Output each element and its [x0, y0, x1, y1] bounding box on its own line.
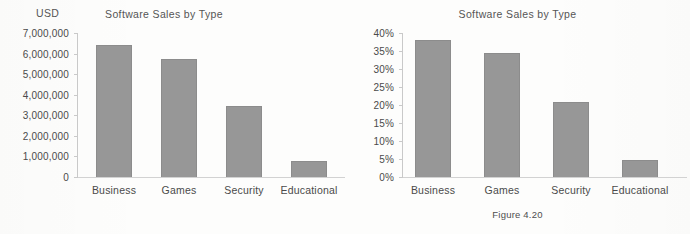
figure-caption: Figure 4.20	[345, 209, 690, 220]
y-axis-tick-label: 2,000,000	[23, 130, 69, 141]
y-axis-tick	[399, 69, 403, 70]
y-axis-tick-label: 5,000,000	[23, 69, 69, 80]
category-label-security: Security	[551, 184, 591, 196]
category-label-security: Security	[224, 184, 264, 196]
chart-software-sales-usd: USD Software Sales by Type 01,000,0002,0…	[0, 0, 345, 205]
y-axis-tick-label: 20%	[373, 100, 394, 111]
y-axis-tick-label: 15%	[373, 118, 394, 129]
y-axis-tick-label: 35%	[373, 46, 394, 57]
bar-games	[484, 53, 520, 177]
y-axis-tick-label: 40%	[373, 28, 394, 39]
chart-software-sales-percent: Software Sales by Type 0%5%10%15%20%25%3…	[345, 0, 690, 205]
x-axis-baseline	[402, 177, 687, 178]
y-axis-tick	[74, 115, 78, 116]
y-axis-tick	[74, 33, 78, 34]
category-label-games: Games	[485, 184, 520, 196]
y-axis-tick-label: 5%	[379, 154, 394, 165]
y-axis-tick	[399, 87, 403, 88]
category-label-games: Games	[162, 184, 197, 196]
y-axis-tick	[74, 54, 78, 55]
y-axis-tick	[399, 33, 403, 34]
y-axis-tick-label: 7,000,000	[23, 28, 69, 39]
category-label-educational: Educational	[611, 184, 668, 196]
y-axis-tick	[74, 95, 78, 96]
y-axis-tick-label: 3,000,000	[23, 110, 69, 121]
y-axis-tick	[399, 177, 403, 178]
y-axis-tick	[399, 123, 403, 124]
y-axis-tick	[399, 141, 403, 142]
y-axis-tick	[74, 177, 78, 178]
plot-area-left: 01,000,0002,000,0003,000,0004,000,0005,0…	[77, 33, 343, 177]
figure-page: USD Software Sales by Type 01,000,0002,0…	[0, 0, 690, 234]
chart-title-right: Software Sales by Type	[345, 8, 690, 20]
y-axis-tick	[74, 136, 78, 137]
category-label-business: Business	[411, 184, 455, 196]
category-label-business: Business	[92, 184, 136, 196]
category-label-educational: Educational	[280, 184, 337, 196]
bar-business	[96, 45, 132, 177]
y-axis-tick	[74, 156, 78, 157]
y-axis-tick-label: 1,000,000	[23, 151, 69, 162]
bar-educational	[622, 160, 658, 177]
bar-games	[161, 59, 197, 177]
y-axis-tick-label: 0	[63, 172, 69, 183]
y-axis-tick-label: 30%	[373, 64, 394, 75]
y-axis-tick	[399, 105, 403, 106]
y-axis-tick	[399, 159, 403, 160]
y-axis-tick-label: 4,000,000	[23, 89, 69, 100]
y-axis-tick-label: 10%	[373, 136, 394, 147]
bar-educational	[291, 161, 327, 177]
x-axis-baseline	[77, 177, 345, 178]
bar-security	[226, 106, 262, 177]
bar-security	[553, 102, 589, 177]
y-axis-tick-label: 6,000,000	[23, 48, 69, 59]
y-axis-tick-label: 25%	[373, 82, 394, 93]
plot-area-right: 0%5%10%15%20%25%30%35%40% BusinessGamesS…	[402, 33, 685, 177]
chart-title-left: Software Sales by Type	[14, 8, 314, 20]
y-axis-tick	[399, 51, 403, 52]
y-axis-tick	[74, 74, 78, 75]
bar-business	[415, 40, 451, 177]
y-axis-tick-label: 0%	[379, 172, 394, 183]
